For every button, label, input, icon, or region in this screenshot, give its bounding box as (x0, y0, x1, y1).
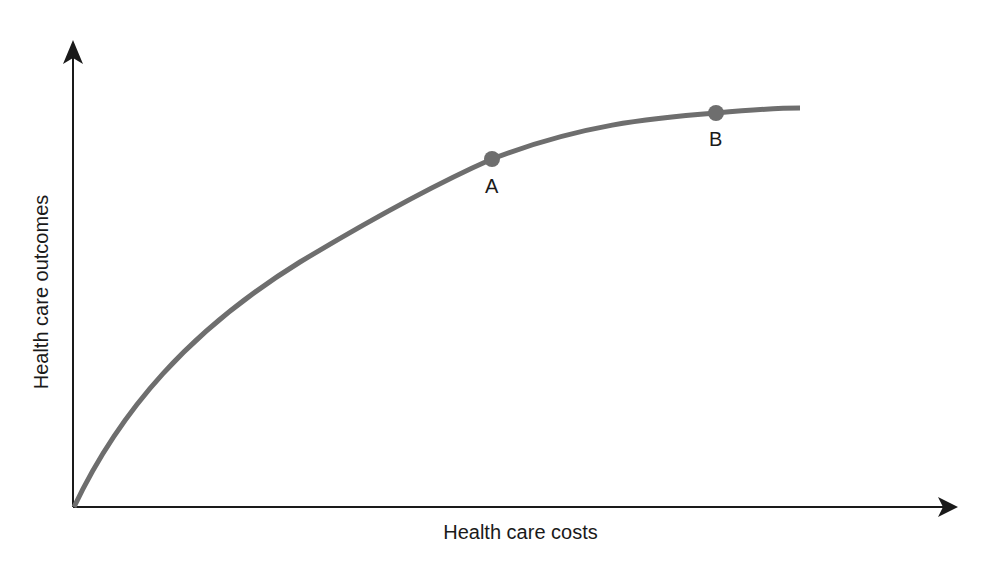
x-axis-title: Health care costs (0, 521, 986, 544)
chart-canvas (0, 0, 986, 573)
outcome-cost-curve (74, 108, 800, 507)
x-axis (73, 497, 958, 517)
y-axis-title: Health care outcomes (30, 195, 53, 390)
point-b-label: B (709, 128, 722, 151)
point-a-marker (484, 151, 500, 167)
point-a-label: A (485, 175, 498, 198)
y-axis (63, 40, 83, 507)
point-b-marker (708, 105, 724, 121)
